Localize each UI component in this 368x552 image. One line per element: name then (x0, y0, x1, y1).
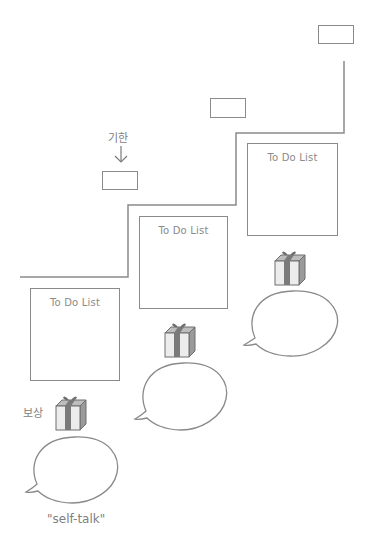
todo-list-title: To Do List (248, 152, 337, 163)
todo-list-title: To Do List (31, 297, 119, 308)
todo-list-title: To Do List (140, 225, 227, 236)
todo-list-box-3: To Do List (247, 143, 338, 236)
todo-list-box-2: To Do List (139, 216, 228, 309)
gift-icon (165, 324, 195, 357)
self-talk-label: "self-talk" (47, 512, 105, 526)
gift-icon (56, 397, 86, 430)
down-arrow-icon (115, 146, 127, 162)
gift-icon (275, 252, 305, 285)
speech-bubble-1 (26, 437, 118, 503)
deadline-label: 기한 (108, 129, 128, 145)
speech-bubble-2 (135, 363, 227, 430)
reward-label: 보상 (23, 404, 43, 420)
deadline-box-3 (318, 25, 354, 44)
speech-bubble-3 (244, 291, 337, 356)
deadline-box-2 (210, 98, 246, 118)
todo-list-box-1: To Do List (30, 288, 120, 381)
deadline-box-1 (102, 171, 138, 190)
